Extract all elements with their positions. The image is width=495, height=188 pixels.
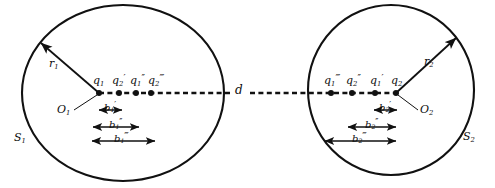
figure-canvas: d r1 r2 O1 O2 S1 S2 q1 q2′ q1″ q2‴ q1‴ q… xyxy=(0,0,495,188)
right-sphere-outline xyxy=(308,5,474,175)
charge-sub: 1 xyxy=(100,80,104,88)
dim-primes: ‴ xyxy=(362,131,366,141)
dim-label-right-b2tprime: b2‴ xyxy=(352,132,367,145)
left-radius-sub: 1 xyxy=(54,63,58,71)
charge-dot-right-3 xyxy=(372,90,378,96)
charge-base: q xyxy=(148,74,155,87)
right-center-base: O xyxy=(420,103,429,116)
charge-label-left-2: q2′ xyxy=(112,73,125,88)
right-radius-label: r2 xyxy=(424,56,434,69)
left-surface-base: S xyxy=(14,131,22,144)
separation-label-d: d xyxy=(235,84,243,96)
dim-primes: ″ xyxy=(119,117,122,127)
charge-dot-left-3 xyxy=(133,90,139,96)
left-center-label: O1 xyxy=(57,104,70,117)
right-center-label: O2 xyxy=(420,104,433,117)
right-surface-base: S xyxy=(463,130,471,143)
charge-label-right-3: q1′ xyxy=(370,73,383,88)
right-radius-sub: 2 xyxy=(429,61,433,69)
dim-primes: ‴ xyxy=(124,131,128,141)
charge-dot-left-2 xyxy=(116,90,122,96)
dim-label-right-b2prime: b2′ xyxy=(379,101,391,114)
charge-label-right-1: q1‴ xyxy=(324,73,340,88)
charge-primes: ‴ xyxy=(159,72,164,83)
right-surface-label: S2 xyxy=(463,131,475,144)
dim-primes: ′ xyxy=(114,100,116,110)
charge-primes: ″ xyxy=(357,72,360,83)
charge-base: q xyxy=(130,74,137,87)
charge-dot-left-1 xyxy=(96,90,102,96)
charge-primes: ′ xyxy=(123,72,125,83)
charge-label-left-3: q1″ xyxy=(130,73,145,88)
charge-base: q xyxy=(324,74,331,87)
charge-primes: ″ xyxy=(141,72,144,83)
charge-dot-right-4 xyxy=(393,90,399,96)
left-surface-label: S1 xyxy=(14,132,26,145)
charge-label-right-2: q2″ xyxy=(346,73,361,88)
dim-label-right-b2dprime: b2″ xyxy=(365,118,378,131)
charge-primes: ′ xyxy=(381,72,383,83)
charge-base: q xyxy=(370,74,377,87)
charge-primes: ‴ xyxy=(335,72,340,83)
right-surface-sub: 2 xyxy=(471,136,475,144)
left-center-base: O xyxy=(57,103,66,116)
left-surface-sub: 1 xyxy=(22,137,26,145)
left-center-sub: 1 xyxy=(66,109,70,117)
dim-label-left-b1prime: b1′ xyxy=(104,101,116,114)
charge-label-left-4: q2‴ xyxy=(148,73,164,88)
dim-primes: ′ xyxy=(389,100,391,110)
charge-dot-right-2 xyxy=(349,90,355,96)
charge-dot-left-4 xyxy=(148,90,154,96)
charge-dot-right-1 xyxy=(328,90,334,96)
charge-base: q xyxy=(346,74,353,87)
dim-label-left-b1dprime: b1″ xyxy=(109,118,122,131)
charge-base: q xyxy=(93,74,100,87)
dim-primes: ″ xyxy=(375,117,378,127)
charge-label-right-4: q2 xyxy=(391,73,402,88)
charge-base: q xyxy=(112,74,119,87)
left-center-leader xyxy=(74,95,97,110)
right-center-leader xyxy=(398,95,418,110)
charge-sub: 2 xyxy=(398,80,402,88)
left-radius-label: r1 xyxy=(49,58,59,71)
charge-base: q xyxy=(391,74,398,87)
diagram-svg xyxy=(0,0,495,188)
charge-label-left-1: q1 xyxy=(93,73,104,88)
dim-label-left-b1tprime: b1‴ xyxy=(114,132,129,145)
right-center-sub: 2 xyxy=(429,109,433,117)
